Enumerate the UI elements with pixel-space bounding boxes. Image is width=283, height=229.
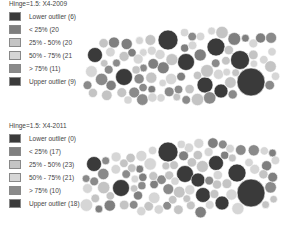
region-bubble[interactable] — [104, 200, 115, 211]
region-bubble[interactable] — [174, 205, 184, 215]
region-bubble[interactable] — [116, 69, 133, 86]
region-bubble[interactable] — [183, 195, 191, 203]
region-bubble[interactable] — [137, 207, 146, 216]
region-bubble[interactable] — [86, 66, 98, 78]
region-bubble[interactable] — [180, 28, 188, 36]
region-bubble[interactable] — [188, 32, 197, 41]
region-bubble[interactable] — [129, 201, 138, 210]
legend-item-upper-outlier[interactable]: Upper outlier (18) — [9, 197, 80, 210]
region-bubble[interactable] — [132, 66, 140, 74]
region-bubble[interactable] — [248, 145, 259, 156]
region-bubble[interactable] — [104, 65, 113, 74]
region-bubble[interactable] — [226, 189, 237, 200]
region-bubble[interactable] — [224, 45, 233, 54]
region-bubble[interactable] — [134, 74, 144, 84]
region-bubble[interactable] — [139, 83, 147, 91]
region-bubble[interactable] — [124, 96, 132, 104]
region-bubble[interactable] — [211, 59, 220, 68]
legend-item-lower-outlier[interactable]: Lower outlier (0) — [9, 132, 80, 145]
region-bubble[interactable] — [128, 49, 136, 57]
region-bubble[interactable] — [265, 80, 275, 90]
region-bubble[interactable] — [208, 138, 219, 149]
region-bubble[interactable] — [249, 50, 259, 60]
region-bubble[interactable] — [265, 61, 277, 73]
region-bubble[interactable] — [223, 68, 231, 76]
region-bubble[interactable] — [191, 173, 205, 187]
legend-item-lt25[interactable]: < 25% (20 — [9, 23, 76, 36]
region-bubble[interactable] — [149, 172, 158, 181]
region-bubble[interactable] — [232, 203, 244, 215]
region-bubble[interactable] — [260, 147, 268, 155]
region-bubble[interactable] — [98, 181, 110, 193]
region-bubble[interactable] — [88, 88, 97, 97]
region-bubble[interactable] — [171, 177, 179, 185]
region-bubble[interactable] — [106, 80, 116, 90]
region-bubble[interactable] — [148, 146, 156, 154]
region-bubble[interactable] — [136, 165, 144, 173]
region-bubble[interactable] — [262, 201, 270, 209]
legend-item-25-50[interactable]: 25% - 50% (20 — [9, 36, 76, 49]
region-bubble[interactable] — [185, 84, 194, 93]
region-bubble[interactable] — [83, 184, 93, 194]
legend-item-gt75[interactable]: > 75% (11) — [9, 62, 76, 75]
region-bubble[interactable] — [268, 172, 278, 182]
region-bubble[interactable] — [128, 164, 137, 173]
region-bubble[interactable] — [148, 192, 160, 204]
region-bubble[interactable] — [271, 156, 280, 165]
region-bubble[interactable] — [231, 51, 250, 70]
region-bubble[interactable] — [270, 195, 278, 203]
region-bubble[interactable] — [193, 71, 201, 79]
region-bubble[interactable] — [228, 154, 236, 162]
region-bubble[interactable] — [266, 32, 277, 43]
legend-item-lower-outlier[interactable]: Lower outlier (6) — [9, 10, 76, 23]
region-bubble[interactable] — [162, 162, 170, 170]
region-bubble[interactable] — [87, 157, 102, 172]
region-bubble[interactable] — [236, 145, 247, 156]
region-bubble[interactable] — [181, 44, 189, 52]
region-bubble[interactable] — [228, 164, 246, 182]
region-bubble[interactable] — [222, 56, 231, 65]
region-bubble[interactable] — [232, 69, 240, 77]
region-bubble[interactable] — [216, 26, 228, 38]
region-bubble[interactable] — [268, 48, 276, 56]
region-bubble[interactable] — [208, 27, 216, 35]
region-bubble[interactable] — [111, 165, 121, 175]
region-bubble[interactable] — [109, 37, 120, 48]
region-bubble[interactable] — [262, 161, 272, 171]
region-bubble[interactable] — [83, 81, 92, 90]
region-bubble[interactable] — [225, 77, 237, 89]
region-bubble[interactable] — [106, 192, 114, 200]
region-bubble[interactable] — [168, 195, 177, 204]
region-bubble[interactable] — [119, 200, 129, 210]
region-bubble[interactable] — [271, 72, 279, 80]
region-bubble[interactable] — [130, 185, 138, 193]
region-bubble[interactable] — [148, 85, 156, 93]
region-bubble[interactable] — [106, 47, 116, 57]
legend-item-gt75[interactable]: > 75% (10) — [9, 184, 80, 197]
region-bubble[interactable] — [222, 179, 232, 189]
region-bubble[interactable] — [80, 199, 93, 212]
region-bubble[interactable] — [113, 180, 130, 197]
region-bubble[interactable] — [136, 37, 144, 45]
legend-item-25-50[interactable]: 25% - 50% (23) — [9, 158, 80, 171]
region-bubble[interactable] — [178, 54, 195, 71]
region-bubble[interactable] — [91, 194, 100, 203]
region-bubble[interactable] — [111, 152, 121, 162]
region-bubble[interactable] — [191, 93, 203, 105]
region-bubble[interactable] — [157, 94, 165, 102]
region-bubble[interactable] — [131, 175, 139, 183]
region-bubble[interactable] — [95, 73, 107, 85]
region-bubble[interactable] — [213, 170, 222, 179]
region-bubble[interactable] — [173, 93, 181, 101]
region-bubble[interactable] — [117, 88, 127, 98]
region-bubble[interactable] — [205, 176, 214, 185]
region-bubble[interactable] — [148, 93, 157, 102]
region-bubble[interactable] — [185, 185, 195, 195]
region-bubble[interactable] — [201, 65, 214, 78]
region-bubble[interactable] — [99, 39, 108, 48]
region-bubble[interactable] — [210, 190, 219, 199]
region-bubble[interactable] — [194, 49, 206, 61]
region-bubble[interactable] — [196, 188, 211, 203]
region-bubble[interactable] — [154, 205, 163, 214]
region-bubble[interactable] — [228, 90, 237, 99]
